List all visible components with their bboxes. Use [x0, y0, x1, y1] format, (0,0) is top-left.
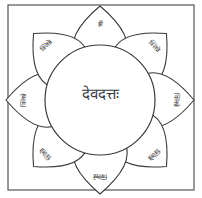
petal-label-top: ह्रीं [98, 20, 103, 28]
lotus-yantra-diagram: ह्रींक्लिन्नेक्लिन्नेक्लिन्नेक्लिन्नेक्ल… [0, 0, 202, 198]
petal-label-left: क्लिन्ने [20, 93, 28, 107]
center-label: देवदत्तः [82, 85, 120, 103]
petal-label-right: क्लिन्ने [172, 93, 180, 107]
petal-label-bottom: क्लिन्ने [93, 172, 107, 180]
